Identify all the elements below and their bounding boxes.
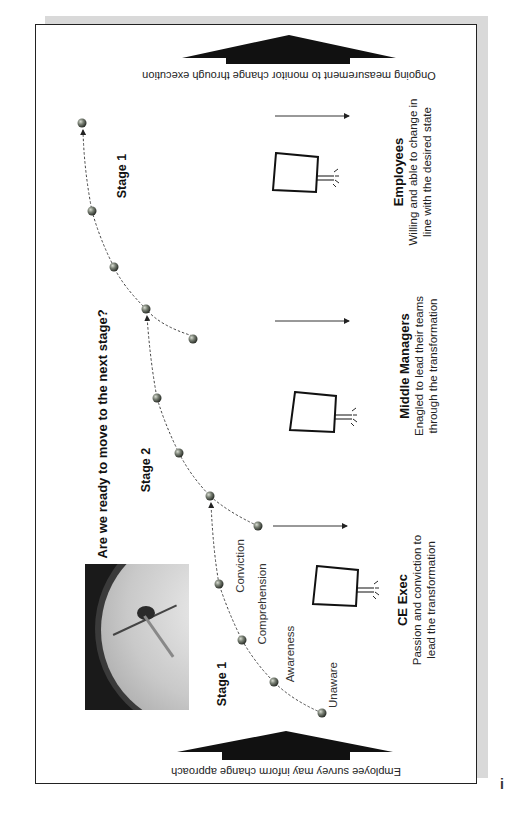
signpost-icon-managers (290, 392, 357, 432)
group-employees-desc-2: line with the desired state (420, 98, 434, 245)
group-exec-desc-1: Passion and conviction to (410, 535, 424, 665)
up-arrow-icon-bottom (177, 731, 393, 760)
step-label-comprehension: Comprehension (256, 563, 268, 644)
up-arrow-icon-top (182, 35, 396, 64)
group-managers-desc-1: Enagled to lead their teams (412, 296, 426, 436)
question-heading: Are we ready to move to the next stage? (95, 309, 110, 558)
start-banner-text: Employee survey may inform change approa… (171, 766, 401, 778)
signpost-icon-employees (273, 153, 339, 192)
group-employees-desc-1: Willing and able to change in (406, 98, 420, 245)
step-label-awareness: Awareness (284, 626, 296, 683)
margin-mark: i (500, 776, 504, 792)
group-managers-title: Middle Managers (397, 296, 412, 436)
step-label-conviction: Conviction (234, 539, 246, 593)
group-exec-desc-2: lead the transformation (424, 535, 438, 665)
group-employees-title: Employees (391, 98, 406, 245)
stage-label-managers: Stage 2 (139, 448, 153, 492)
group-exec: CE Exec Passion and conviction to lead t… (395, 535, 438, 665)
step-label-unaware: Unaware (327, 662, 339, 708)
stage-label-employees: Stage 1 (115, 154, 129, 198)
group-employees: Employees Willing and able to change in … (391, 98, 434, 245)
signpost-icon-exec (313, 566, 379, 606)
stage-label-exec: Stage 1 (215, 662, 229, 706)
group-managers: Middle Managers Enagled to lead their te… (397, 296, 440, 436)
group-managers-desc-2: through the transformation (426, 296, 440, 436)
end-banner-text: Ongoing measurement to monitor change th… (142, 70, 436, 82)
group-exec-title: CE Exec (395, 535, 410, 665)
